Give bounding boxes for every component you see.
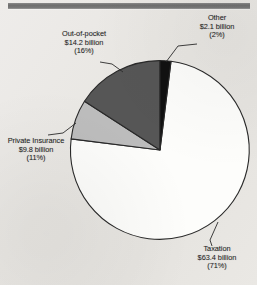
leader-line-other — [166, 44, 197, 62]
leader-line-taxation — [210, 222, 218, 246]
pie-label-private-insurance: Private Insurance $9.8 billion (11%) — [1, 137, 71, 163]
page-canvas: Other $2.1 billion (2%) Out-of-pocket $1… — [0, 0, 257, 285]
pie-label-other-percent: (2%) — [186, 31, 248, 40]
pie-label-out-of-pocket: Out-of-pocket $14.2 billion (16%) — [48, 30, 120, 56]
pie-label-taxation: Taxation $63.4 billion (71%) — [186, 245, 248, 271]
pie-label-other: Other $2.1 billion (2%) — [186, 14, 248, 40]
pie-label-taxation-percent: (71%) — [186, 262, 248, 271]
pie-label-out-of-pocket-percent: (16%) — [48, 47, 120, 56]
pie-label-private-insurance-percent: (11%) — [1, 154, 71, 163]
